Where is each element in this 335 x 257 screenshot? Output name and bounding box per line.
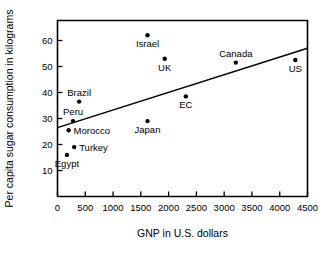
point-label: Egypt [55,158,80,169]
y-tick-label: 40 [42,87,53,98]
point-label: Morocco [74,125,110,136]
y-tick-label: 20 [42,139,53,150]
x-tick-label: 500 [77,202,93,213]
point-label: US [289,63,302,74]
y-axis-title: Per capita sugar consumption in kilogram… [3,10,15,208]
chart-canvas: 0500100015002000250030003500400045001020… [0,0,335,257]
point-marker [293,58,297,62]
point-marker [234,60,238,64]
point-marker [77,99,81,103]
x-tick-label: 1500 [130,202,151,213]
point-label: UK [158,62,172,73]
point-label: Peru [63,106,83,117]
y-tick-label: 10 [42,165,53,176]
y-tick-label: 50 [42,61,53,72]
y-tick-label: 30 [42,113,53,124]
x-tick-label: 3500 [241,202,262,213]
x-tick-label: 4500 [297,202,318,213]
x-tick-label: 2500 [186,202,207,213]
x-tick-label: 4000 [269,202,290,213]
y-tick-label: 60 [42,35,53,46]
point-label: Brazil [67,87,91,98]
point-marker [65,153,69,157]
point-marker [184,94,188,98]
x-axis-title: GNP in U.S. dollars [137,227,228,239]
point-marker [145,119,149,123]
x-tick-label: 1000 [102,202,123,213]
point-label: Israel [136,38,159,49]
point-marker [145,33,149,37]
point-label: Japan [135,124,161,135]
point-marker [66,128,70,132]
point-marker [71,119,75,123]
data-point-morocco: Morocco [66,125,110,136]
point-label: Turkey [79,142,108,153]
scatter-plot-figure: 0500100015002000250030003500400045001020… [0,0,335,257]
point-label: Canada [219,48,253,59]
x-tick-label: 2000 [158,202,179,213]
point-marker [163,57,167,61]
x-tick-label: 0 [55,202,60,213]
point-marker [72,145,76,149]
x-tick-label: 3000 [214,202,235,213]
point-label: EC [179,99,192,110]
